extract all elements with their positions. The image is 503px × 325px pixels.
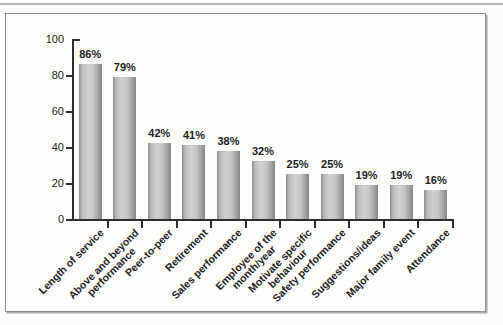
y-tick-label: 100	[24, 33, 64, 46]
bar	[286, 174, 309, 219]
bar	[424, 190, 447, 219]
y-axis-top-cap	[74, 39, 80, 41]
bar-value-label: 79%	[103, 61, 147, 74]
bar-value-label: 16%	[414, 174, 458, 187]
bar	[321, 174, 344, 219]
bar	[113, 77, 136, 219]
bar	[252, 161, 275, 219]
x-axis-tick	[348, 221, 350, 228]
x-axis-tick	[383, 221, 385, 228]
x-axis-tick	[141, 221, 143, 228]
y-axis-tick	[66, 183, 72, 185]
y-axis-tick	[66, 219, 72, 221]
y-axis-tick	[66, 75, 72, 77]
bar	[355, 185, 378, 219]
bar	[148, 143, 171, 219]
y-tick-label: 0	[24, 213, 64, 226]
figure-frame: 02040608010086%Length of service79%Above…	[5, 13, 486, 312]
bar	[390, 185, 413, 219]
bar	[217, 151, 240, 219]
y-axis-tick	[66, 111, 72, 113]
bar-chart: 02040608010086%Length of service79%Above…	[6, 14, 485, 311]
y-tick-label: 40	[24, 141, 64, 154]
bar	[182, 145, 205, 219]
top-rule	[0, 3, 503, 5]
x-axis-line	[72, 219, 454, 221]
x-axis-tick	[279, 221, 281, 228]
x-axis-tick	[314, 221, 316, 228]
x-axis-tick	[245, 221, 247, 228]
bar-value-label: 86%	[68, 48, 112, 61]
y-tick-label: 20	[24, 177, 64, 190]
x-axis-tick	[107, 221, 109, 228]
x-axis-tick	[417, 221, 419, 228]
x-axis-tick	[176, 221, 178, 228]
bar-value-label: 32%	[241, 145, 285, 158]
x-axis-tick	[210, 221, 212, 228]
y-axis-tick	[66, 147, 72, 149]
x-axis-tick	[452, 221, 454, 228]
y-tick-label: 80	[24, 69, 64, 82]
y-axis-line	[72, 39, 74, 221]
y-tick-label: 60	[24, 105, 64, 118]
bar	[79, 64, 102, 219]
